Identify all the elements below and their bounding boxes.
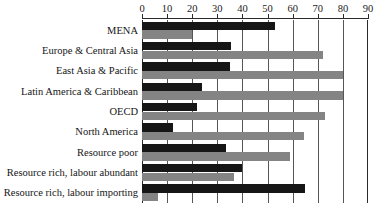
- x-tick-mark: [217, 14, 218, 19]
- bar: [142, 103, 197, 111]
- bar: [142, 83, 202, 91]
- x-tick-mark: [293, 14, 294, 19]
- x-tick-mark: [268, 14, 269, 19]
- x-tick-mark: [368, 14, 369, 19]
- bar: [142, 132, 304, 140]
- x-axis-rule: [142, 18, 368, 19]
- category-label: North America: [75, 126, 142, 137]
- category-label: Resource poor: [77, 147, 142, 158]
- x-tick-mark: [343, 14, 344, 19]
- x-tick-mark: [242, 14, 243, 19]
- bar-chart: 0102030405060708090 MENAEurope & Central…: [0, 0, 374, 215]
- plot-area: [142, 20, 368, 203]
- x-tick-mark: [167, 14, 168, 19]
- bar: [142, 42, 231, 50]
- y-axis-category-labels: MENAEurope & Central AsiaEast Asia & Pac…: [0, 20, 142, 203]
- bar: [142, 164, 242, 172]
- bar: [142, 22, 275, 30]
- category-label: Europe & Central Asia: [42, 45, 142, 56]
- category-label: East Asia & Pacific: [56, 65, 142, 76]
- bar: [142, 173, 234, 181]
- bar: [142, 184, 305, 192]
- bar: [142, 144, 226, 152]
- bar: [142, 30, 192, 38]
- bar: [142, 152, 290, 160]
- category-label: Resource rich, labour importing: [4, 187, 142, 198]
- category-label: OECD: [109, 106, 142, 117]
- x-tick-mark: [142, 14, 143, 19]
- bar: [142, 51, 323, 59]
- bar: [142, 91, 343, 99]
- category-label: Latin America & Caribbean: [21, 86, 142, 97]
- x-tick-mark: [192, 14, 193, 19]
- category-label: Resource rich, labour abundant: [7, 167, 142, 178]
- category-label: MENA: [107, 25, 142, 36]
- bar: [142, 123, 173, 131]
- bar: [142, 193, 158, 201]
- bar: [142, 71, 343, 79]
- x-tick-mark: [318, 14, 319, 19]
- gridline: [343, 20, 344, 203]
- bar: [142, 112, 325, 120]
- bar: [142, 62, 230, 70]
